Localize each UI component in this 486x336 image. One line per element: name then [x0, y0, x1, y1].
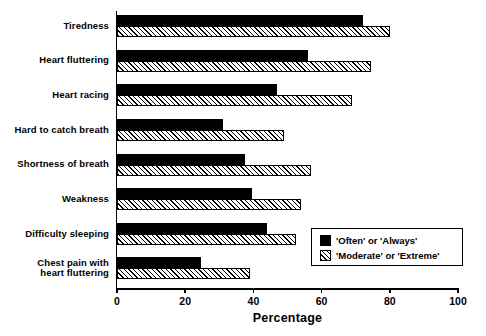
x-tick	[457, 288, 459, 293]
legend-entry-often-always: 'Often' or 'Always'	[320, 233, 462, 248]
category-label: Chest pain withheart fluttering	[37, 258, 109, 279]
x-tick	[184, 288, 186, 293]
category-axis-labels: TirednessHeart flutteringHeart racingHar…	[0, 0, 113, 336]
x-tick-label: 80	[370, 295, 410, 307]
hatched-swatch-icon	[320, 250, 331, 261]
solid-black-swatch-icon	[320, 235, 331, 246]
category-label: Weakness	[62, 194, 109, 205]
bar-moderate-extreme	[117, 26, 390, 37]
x-tick-label: 0	[97, 295, 137, 307]
category-label-line: Shortness of breath	[17, 159, 109, 170]
category-label: Shortness of breath	[17, 159, 109, 170]
category-label: Tiredness	[63, 21, 109, 32]
bar-moderate-extreme	[117, 234, 296, 245]
x-axis-title: Percentage	[117, 311, 458, 325]
x-tick	[116, 288, 118, 293]
x-tick-label: 20	[165, 295, 205, 307]
category-label-line: Heart fluttering	[39, 55, 109, 66]
legend: 'Often' or 'Always' 'Moderate' or 'Extre…	[311, 228, 463, 266]
category-label-line: Weakness	[62, 194, 109, 205]
legend-entry-moderate-extreme: 'Moderate' or 'Extreme'	[320, 248, 462, 263]
bar-often-always	[117, 223, 267, 234]
bar-often-always	[117, 257, 201, 268]
category-label-line: Difficulty sleeping	[25, 229, 109, 240]
x-tick-label: 100	[438, 295, 478, 307]
x-tick-label: 60	[302, 295, 342, 307]
category-label-line: heart fluttering	[37, 268, 109, 279]
x-tick	[389, 288, 391, 293]
category-label: Heart racing	[52, 90, 109, 101]
bar-moderate-extreme	[117, 199, 301, 210]
category-label-line: Tiredness	[63, 21, 109, 32]
bar-often-always	[117, 84, 277, 95]
category-label: Difficulty sleeping	[25, 229, 109, 240]
legend-label-moderate-extreme: 'Moderate' or 'Extreme'	[336, 250, 440, 261]
bar-moderate-extreme	[117, 95, 352, 106]
category-label-line: Hard to catch breath	[15, 125, 109, 136]
bar-moderate-extreme	[117, 61, 371, 72]
bar-often-always	[117, 50, 308, 61]
x-tick-label: 40	[233, 295, 273, 307]
bar-moderate-extreme	[117, 268, 250, 279]
category-label: Hard to catch breath	[15, 125, 109, 136]
bar-often-always	[117, 154, 245, 165]
x-axis-line	[116, 288, 459, 290]
bar-often-always	[117, 188, 252, 199]
bar-moderate-extreme	[117, 165, 311, 176]
bar-moderate-extreme	[117, 130, 284, 141]
bar-often-always	[117, 119, 223, 130]
legend-label-often-always: 'Often' or 'Always'	[336, 235, 417, 246]
bar-chart: TirednessHeart flutteringHeart racingHar…	[0, 0, 486, 336]
category-label: Heart fluttering	[39, 55, 109, 66]
category-label-line: Heart racing	[52, 90, 109, 101]
x-tick	[253, 288, 255, 293]
x-tick	[321, 288, 323, 293]
bar-often-always	[117, 15, 363, 26]
